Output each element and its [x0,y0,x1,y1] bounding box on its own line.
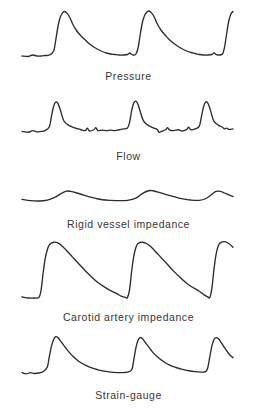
panel-label-pressure: Pressure [0,70,257,82]
panel-flow: Flow [0,94,257,162]
rigid-vessel-trace-plot [0,174,257,212]
strain-gauge-trace-svg [0,330,257,382]
panel-label-rigid-vessel-impedance: Rigid vessel impedance [0,218,257,230]
flow-trace-plot [0,94,257,142]
panel-carotid-artery-impedance: Carotid artery impedance [0,238,257,323]
strain-gauge-trace-plot [0,330,257,382]
flow-trace-path [22,101,233,132]
rigid-vessel-trace-svg [0,174,257,212]
panel-label-flow: Flow [0,150,257,162]
carotid-trace-path [22,242,233,299]
carotid-trace-plot [0,238,257,306]
panel-rigid-vessel-impedance: Rigid vessel impedance [0,174,257,230]
pressure-trace-svg [0,8,257,64]
waveform-figure: Pressure Flow Rigid vessel impedance Car… [0,0,257,412]
panel-pressure: Pressure [0,8,257,82]
pressure-trace-path [22,11,233,57]
panel-strain-gauge: Strain-gauge [0,330,257,401]
pressure-trace-plot [0,8,257,64]
rigid-vessel-trace-path [22,190,233,201]
flow-trace-svg [0,94,257,142]
carotid-trace-svg [0,238,257,306]
panel-label-carotid-artery-impedance: Carotid artery impedance [0,311,257,323]
panel-label-strain-gauge: Strain-gauge [0,389,257,401]
strain-gauge-trace-path [22,337,233,374]
